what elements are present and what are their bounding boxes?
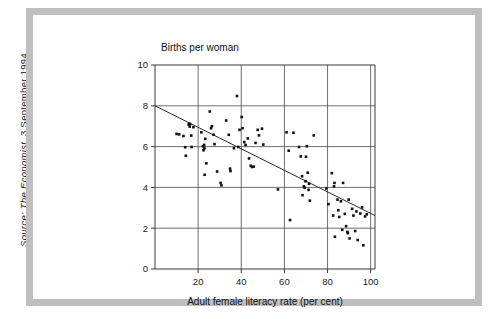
data-point bbox=[347, 198, 350, 201]
data-point bbox=[203, 144, 206, 147]
data-point bbox=[254, 142, 257, 145]
data-point bbox=[305, 156, 308, 159]
data-point bbox=[246, 137, 249, 140]
data-point bbox=[300, 155, 303, 158]
data-point bbox=[240, 116, 243, 119]
data-point bbox=[289, 219, 292, 222]
data-point bbox=[366, 213, 369, 216]
data-point bbox=[237, 146, 240, 149]
data-point bbox=[306, 171, 309, 174]
data-point bbox=[333, 182, 336, 185]
data-point bbox=[212, 133, 215, 136]
scatter-chart: Births per woman024681020406080100Adult … bbox=[33, 15, 489, 313]
data-point bbox=[342, 182, 345, 185]
data-point bbox=[277, 188, 280, 191]
data-point bbox=[341, 229, 344, 232]
data-point bbox=[287, 149, 290, 152]
data-point bbox=[359, 212, 362, 215]
data-point bbox=[189, 123, 192, 126]
data-point bbox=[258, 134, 261, 137]
data-point bbox=[292, 131, 295, 134]
data-point bbox=[362, 244, 365, 247]
data-point bbox=[243, 141, 246, 144]
chart-title: Births per woman bbox=[161, 42, 239, 53]
data-point bbox=[347, 232, 350, 235]
ytick-label-8: 8 bbox=[143, 100, 148, 111]
data-point bbox=[208, 110, 211, 113]
data-point bbox=[184, 146, 187, 149]
trend-line bbox=[155, 106, 375, 216]
data-point bbox=[344, 213, 347, 216]
data-point bbox=[325, 187, 328, 190]
data-point bbox=[338, 216, 341, 219]
x-axis-title: Adult female literacy rate (per cent) bbox=[187, 296, 343, 307]
data-point bbox=[303, 187, 306, 190]
ytick-label-10: 10 bbox=[137, 59, 148, 70]
data-point bbox=[308, 182, 311, 185]
data-point bbox=[205, 162, 208, 165]
figure-frame: Births per woman024681020406080100Adult … bbox=[26, 8, 482, 306]
data-point bbox=[327, 203, 330, 206]
data-point bbox=[332, 214, 335, 217]
data-point bbox=[185, 154, 188, 157]
data-point bbox=[244, 144, 247, 147]
data-point bbox=[204, 138, 207, 141]
data-point bbox=[241, 127, 244, 130]
data-point bbox=[203, 173, 206, 176]
data-point bbox=[192, 126, 195, 129]
data-point bbox=[333, 185, 336, 188]
data-point bbox=[211, 125, 214, 128]
data-point bbox=[336, 198, 339, 201]
data-point bbox=[340, 200, 343, 203]
data-point bbox=[213, 143, 216, 146]
data-point bbox=[229, 170, 232, 173]
data-point bbox=[348, 237, 351, 240]
data-point bbox=[301, 194, 304, 197]
data-point bbox=[298, 146, 301, 149]
data-point bbox=[285, 131, 288, 134]
data-point bbox=[216, 170, 219, 173]
xtick-label-40: 40 bbox=[236, 276, 247, 287]
data-point bbox=[351, 208, 354, 211]
data-point bbox=[345, 225, 348, 228]
figure-inner: Births per woman024681020406080100Adult … bbox=[33, 15, 475, 299]
data-point bbox=[355, 210, 358, 213]
data-point bbox=[229, 167, 232, 170]
data-point bbox=[312, 134, 315, 137]
data-point bbox=[175, 133, 178, 136]
data-point bbox=[190, 134, 193, 137]
xtick-label-20: 20 bbox=[193, 276, 204, 287]
xtick-label-60: 60 bbox=[279, 276, 290, 287]
data-point bbox=[334, 235, 337, 238]
data-point bbox=[304, 180, 307, 183]
data-point bbox=[238, 129, 241, 132]
data-point bbox=[248, 157, 251, 160]
data-point bbox=[219, 182, 222, 185]
data-point bbox=[306, 145, 309, 148]
ytick-label-4: 4 bbox=[143, 182, 148, 193]
data-point bbox=[190, 146, 193, 149]
data-point bbox=[233, 147, 236, 150]
ytick-label-6: 6 bbox=[143, 141, 148, 152]
data-point bbox=[352, 214, 355, 217]
data-point bbox=[200, 131, 203, 134]
data-point bbox=[307, 189, 310, 192]
data-point bbox=[236, 95, 239, 98]
data-point bbox=[337, 209, 340, 212]
data-point bbox=[301, 175, 304, 178]
data-point bbox=[203, 147, 206, 150]
data-point bbox=[354, 230, 357, 233]
ytick-label-2: 2 bbox=[143, 223, 148, 234]
xtick-label-80: 80 bbox=[322, 276, 333, 287]
data-point bbox=[178, 133, 181, 136]
chart-canvas: Births per woman024681020406080100Adult … bbox=[33, 15, 489, 313]
data-point bbox=[227, 133, 230, 136]
data-point bbox=[220, 184, 223, 187]
ytick-label-0: 0 bbox=[143, 263, 148, 274]
data-point bbox=[256, 129, 259, 132]
data-point bbox=[225, 119, 228, 122]
data-point bbox=[309, 199, 312, 202]
data-point bbox=[356, 239, 359, 242]
data-point bbox=[361, 206, 364, 209]
data-point bbox=[261, 127, 264, 130]
